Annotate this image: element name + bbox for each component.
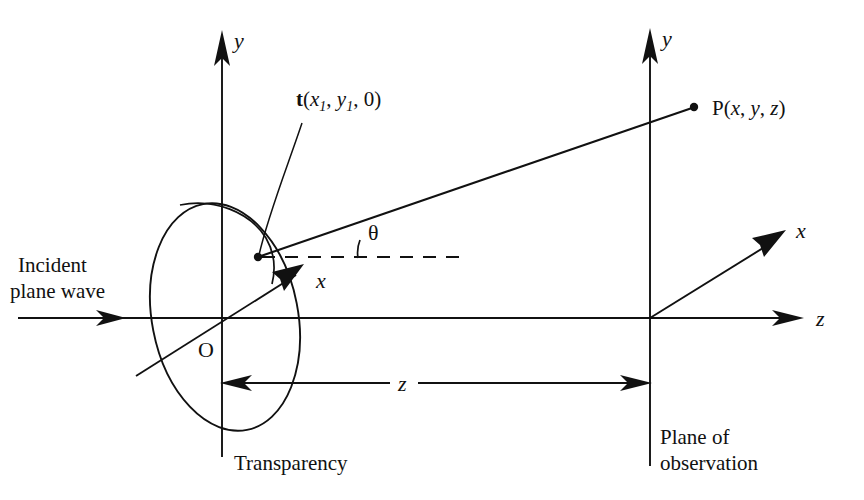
x-axis-right-arrow-icon <box>752 230 786 257</box>
theta-arc <box>358 240 360 258</box>
distance-z-label: z <box>397 371 407 396</box>
field-point-label: P(x, y, z) <box>712 96 786 120</box>
transparency-label: Transparency <box>234 451 348 475</box>
source-point-dot <box>254 253 262 261</box>
field-point-dot <box>690 103 698 111</box>
field-point-sep2: , <box>760 96 771 120</box>
source-point-symbol: t <box>296 87 303 111</box>
source-point-coord1-sub: 1 <box>319 99 326 114</box>
source-point-sep2: , <box>353 87 364 111</box>
y-axis-left-label: y <box>232 28 244 53</box>
source-point-coord3: 0 <box>364 87 375 111</box>
transparency-ellipse <box>131 190 318 444</box>
x-axis-left-line <box>136 275 296 376</box>
plane-of-observation-label-line1: Plane of <box>660 425 729 449</box>
svg-text:t(x1, y1, 0): t(x1, y1, 0) <box>296 87 381 114</box>
field-point-sep1: , <box>740 96 751 120</box>
optics-diagram: y y x x z O θ z Incident plane wave Tran… <box>0 0 864 500</box>
projection-arc <box>180 203 274 284</box>
field-point-close-paren: ) <box>779 96 786 120</box>
svg-text:P(x, y, z): P(x, y, z) <box>712 96 786 120</box>
x-axis-right-label: x <box>795 218 806 243</box>
source-point-sep1: , <box>326 87 337 111</box>
x-axis-left-label: x <box>315 268 326 293</box>
field-point-coord2: y <box>749 96 761 120</box>
source-point-label: t(x1, y1, 0) <box>296 87 381 114</box>
y-axis-right-label: y <box>660 26 672 51</box>
plane-of-observation-label-line2: observation <box>660 451 758 475</box>
ray-t-to-p <box>258 108 692 257</box>
field-point-symbol: P <box>712 96 724 120</box>
t-label-leader-line <box>259 123 302 255</box>
source-point-coord2: y <box>335 87 347 111</box>
figure-root: y y x x z O θ z Incident plane wave Tran… <box>0 0 864 500</box>
incident-wave-label-line1: Incident <box>18 253 87 277</box>
theta-label: θ <box>368 220 379 245</box>
origin-label: O <box>198 337 214 362</box>
source-point-close-paren: ) <box>374 87 381 111</box>
source-point-open-paren: ( <box>303 87 310 111</box>
field-point-coord3: z <box>769 96 778 120</box>
x-axis-right-line <box>650 240 776 318</box>
incident-wave-label-line2: plane wave <box>10 279 105 303</box>
source-point-coord2-sub: 1 <box>346 99 353 114</box>
z-axis-label: z <box>815 306 825 331</box>
field-point-open-paren: ( <box>724 96 731 120</box>
